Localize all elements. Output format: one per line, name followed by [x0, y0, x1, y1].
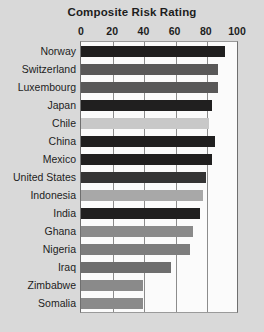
category-label: Indonesia [30, 189, 76, 201]
bar [81, 208, 200, 219]
bars-container [81, 42, 237, 312]
category-label: Somalia [38, 297, 76, 309]
category-label: Switzerland [22, 63, 76, 75]
bar [81, 82, 218, 93]
bar [81, 64, 218, 75]
bar [81, 280, 143, 291]
bar [81, 118, 209, 129]
bar [81, 226, 193, 237]
category-label: Mexico [43, 153, 76, 165]
category-axis-labels: NorwaySwitzerlandLuxembourgJapanChileChi… [0, 41, 76, 313]
bar [81, 136, 215, 147]
category-label: United States [13, 171, 76, 183]
category-label: China [49, 135, 76, 147]
x-tick-label: 100 [228, 25, 246, 37]
bar [81, 298, 143, 309]
category-label: Zimbabwe [28, 279, 76, 291]
x-tick-label: 60 [169, 25, 181, 37]
category-label: Ghana [44, 225, 76, 237]
x-tick-label: 80 [200, 25, 212, 37]
category-label: Norway [40, 45, 76, 57]
bar [81, 244, 190, 255]
x-axis-tick-labels: 020406080100 [0, 25, 264, 39]
bar [81, 190, 203, 201]
x-tick-label: 20 [106, 25, 118, 37]
category-label: Iraq [58, 261, 76, 273]
category-label: Japan [47, 99, 76, 111]
composite-risk-rating-chart: Composite Risk Rating 020406080100 Norwa… [0, 0, 264, 332]
x-tick-label: 0 [78, 25, 84, 37]
category-label: Chile [52, 117, 76, 129]
category-label: Nigeria [43, 243, 76, 255]
bar [81, 100, 212, 111]
bar [81, 46, 225, 57]
x-tick-label: 40 [138, 25, 150, 37]
bar [81, 154, 212, 165]
bar [81, 262, 171, 273]
chart-title: Composite Risk Rating [0, 6, 264, 18]
bar [81, 172, 206, 183]
category-label: India [53, 207, 76, 219]
category-label: Luxembourg [18, 81, 76, 93]
